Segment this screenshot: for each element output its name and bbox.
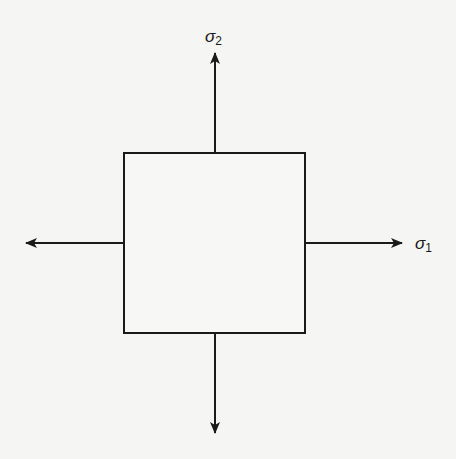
sigma1-symbol: σ	[415, 234, 425, 253]
sigma2-subscript: 2	[215, 34, 222, 48]
sigma2-label: σ2	[205, 28, 222, 47]
stress-element-diagram: σ2 σ1	[0, 0, 456, 459]
diagram-canvas	[0, 0, 456, 459]
sigma1-label: σ1	[415, 235, 432, 254]
stress-element-square	[124, 153, 305, 333]
sigma2-symbol: σ	[205, 27, 215, 46]
sigma1-subscript: 1	[425, 241, 432, 255]
